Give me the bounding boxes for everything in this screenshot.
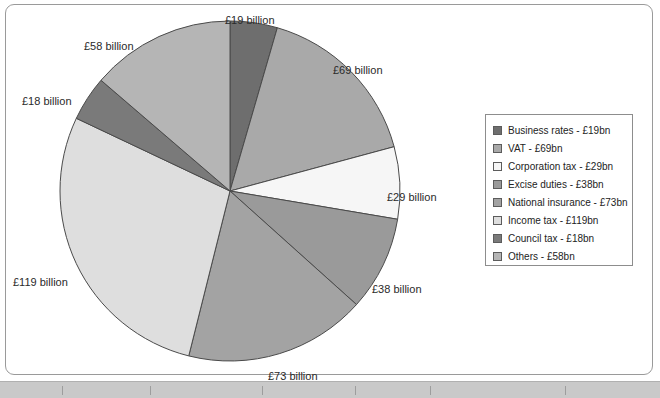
ruler-tick <box>262 386 263 395</box>
ruler-tick <box>430 386 431 395</box>
legend-item[interactable]: National insurance - £73bn <box>493 194 632 211</box>
legend-swatch-icon <box>493 198 502 207</box>
pie-label-excise-duties: £38 billion <box>372 283 422 295</box>
legend-item[interactable]: Council tax - £18bn <box>493 230 632 247</box>
ruler-tick <box>62 386 63 395</box>
legend-item-label: Income tax - £119bn <box>508 215 598 226</box>
legend-swatch-icon <box>493 234 502 243</box>
pie-label-business-rates: £19 billion <box>225 14 275 26</box>
pie-label-council-tax: £18 billion <box>22 95 72 107</box>
legend-swatch-icon <box>493 162 502 171</box>
legend-item-label: Excise duties - £38bn <box>508 179 604 190</box>
legend-swatch-icon <box>493 144 502 153</box>
legend-item-label: VAT - £69bn <box>508 143 562 154</box>
legend-item[interactable]: Corporation tax - £29bn <box>493 158 632 175</box>
page-bottom-strip <box>0 381 660 398</box>
legend-item-label: Corporation tax - £29bn <box>508 161 613 172</box>
pie-label-income-tax: £119 billion <box>13 276 68 288</box>
chart-area: £19 billion £69 billion £29 billion £38 … <box>0 0 660 381</box>
legend-item[interactable]: Excise duties - £38bn <box>493 176 632 193</box>
legend-item-label: Others - £58bn <box>508 251 575 262</box>
pie-label-vat: £69 billion <box>333 64 383 76</box>
pie-label-corporation-tax: £29 billion <box>387 191 437 203</box>
legend-item-label: National insurance - £73bn <box>508 197 628 208</box>
pie-label-others: £58 billion <box>84 40 134 52</box>
legend-swatch-icon <box>493 126 502 135</box>
ruler-tick <box>150 386 151 395</box>
ruler-tick <box>565 386 566 395</box>
legend-swatch-icon <box>493 180 502 189</box>
legend-item[interactable]: Income tax - £119bn <box>493 212 632 229</box>
legend-swatch-icon <box>493 216 502 225</box>
legend-item[interactable]: VAT - £69bn <box>493 140 632 157</box>
legend-item-label: Business rates - £19bn <box>508 125 610 136</box>
legend-swatch-icon <box>493 252 502 261</box>
legend-item[interactable]: Business rates - £19bn <box>493 122 632 139</box>
legend-item[interactable]: Others - £58bn <box>493 248 632 265</box>
chart-legend: Business rates - £19bnVAT - £69bnCorpora… <box>485 114 633 266</box>
ruler-tick <box>355 386 356 395</box>
legend-item-label: Council tax - £18bn <box>508 233 594 244</box>
